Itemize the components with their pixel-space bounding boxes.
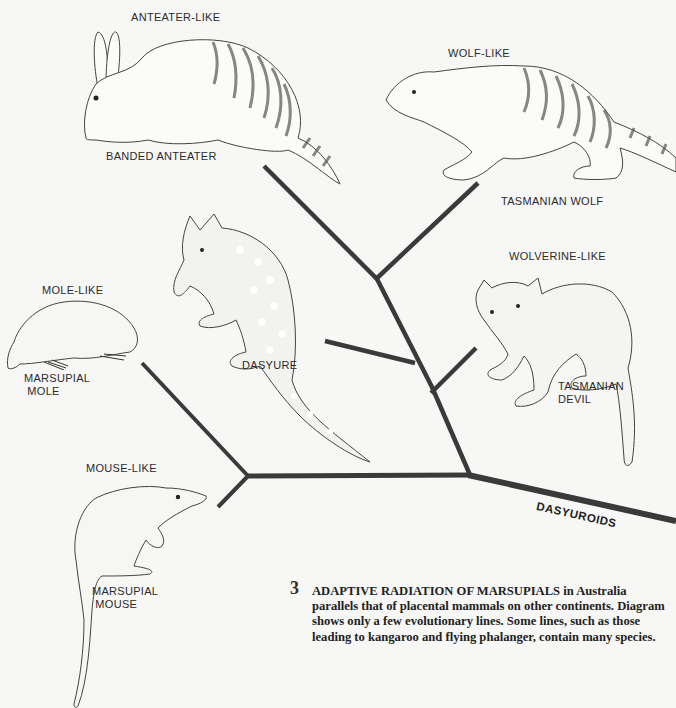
branch-wolf bbox=[375, 183, 478, 280]
marsupial-mole-illustration bbox=[4, 298, 140, 370]
caption-title: ADAPTIVE RADIATION OF MARSUPIALS bbox=[312, 584, 560, 598]
branch-mouse bbox=[218, 476, 248, 507]
species-label-dasyure: DASYURE bbox=[242, 359, 297, 372]
niche-label-wolverine-like: WOLVERINE-LIKE bbox=[509, 250, 606, 263]
dasyure-illustration bbox=[170, 210, 380, 466]
banded-anteater-illustration bbox=[78, 28, 343, 188]
branch-horizontal bbox=[246, 475, 471, 476]
figure-number: 3 bbox=[290, 578, 299, 599]
niche-label-wolf-like: WOLF-LIKE bbox=[448, 47, 510, 60]
niche-label-anteater-like: ANTEATER-LIKE bbox=[131, 11, 220, 24]
figure-caption: ADAPTIVE RADIATION OF MARSUPIALS in Aust… bbox=[312, 584, 672, 645]
tasmanian-wolf-illustration bbox=[384, 62, 676, 192]
trunk-upper bbox=[376, 277, 433, 389]
niche-label-mole-like: MOLE-LIKE bbox=[42, 284, 103, 297]
tasmanian-devil-illustration bbox=[472, 272, 642, 472]
trunk-lower bbox=[432, 387, 470, 475]
species-label-marsupial-mole: MARSUPIAL MOLE bbox=[24, 372, 90, 398]
species-label-tasmanian-devil: TASMANIAN DEVIL bbox=[558, 380, 624, 406]
species-label-marsupial-mouse: MARSUPIAL MOUSE bbox=[92, 585, 158, 611]
niche-label-mouse-like: MOUSE-LIKE bbox=[86, 462, 157, 475]
species-label-tasmanian-wolf: TASMANIAN WOLF bbox=[501, 195, 603, 208]
species-label-banded-anteater: BANDED ANTEATER bbox=[106, 150, 217, 163]
branch-devil bbox=[431, 348, 476, 393]
